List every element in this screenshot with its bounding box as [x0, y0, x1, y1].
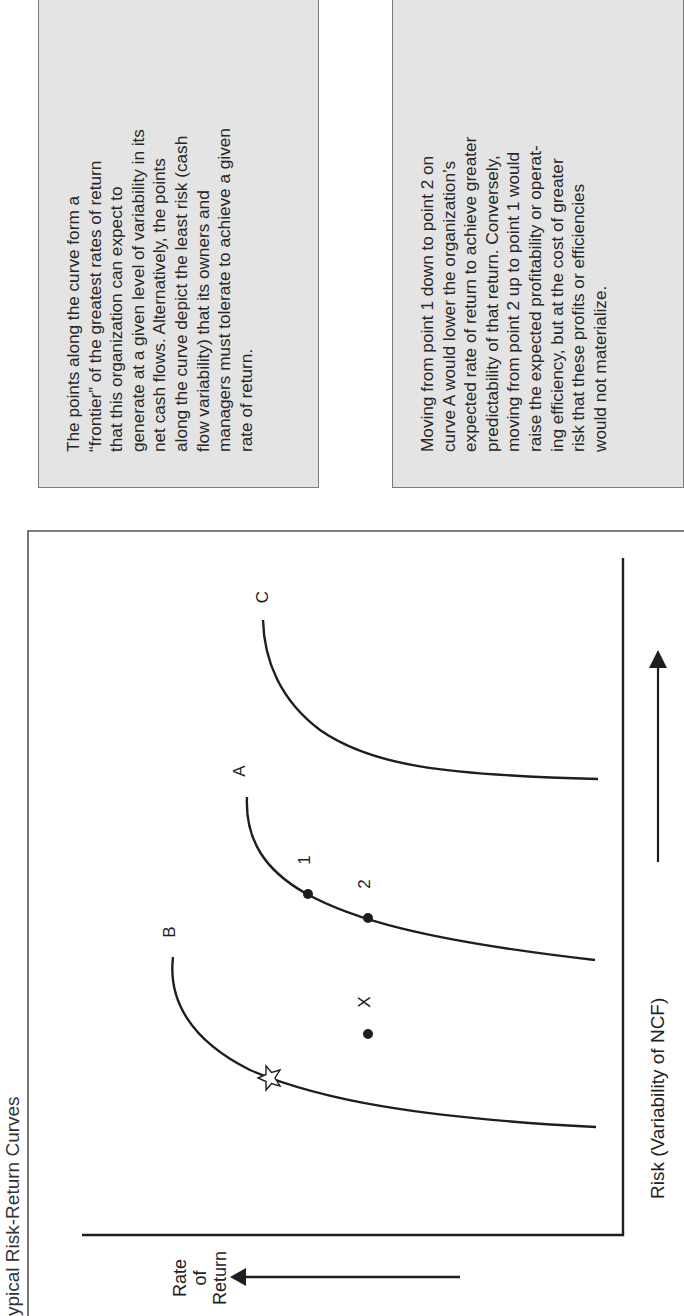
axes — [82, 558, 623, 1235]
curve-c-label: C — [253, 591, 272, 603]
x-axis-label: Risk (Variability of NCF) — [647, 998, 669, 1199]
curve-c — [263, 620, 598, 779]
point-x-label: X — [355, 996, 374, 1007]
risk-arrow-head — [649, 650, 667, 668]
point-1-label: 1 — [295, 855, 314, 864]
y-axis-label: Rate of Return — [170, 1240, 230, 1316]
star-icon — [258, 1066, 280, 1090]
curve-b — [172, 957, 596, 1127]
y-label-line: of — [190, 1240, 210, 1316]
curve-a — [247, 797, 595, 960]
point-2-label: 2 — [355, 879, 374, 888]
y-label-line: Return — [210, 1240, 230, 1316]
point-1-dot — [303, 889, 313, 899]
curve-b-label: B — [160, 926, 179, 937]
y-label-line: Rate — [170, 1240, 190, 1316]
return-arrow-head — [230, 1268, 246, 1286]
curve-a-label: A — [230, 765, 249, 777]
point-2-dot — [363, 913, 373, 923]
point-x-dot — [363, 1029, 373, 1039]
figure-frame — [28, 531, 684, 1316]
risk-return-chart: C A B 1 2 X — [0, 0, 684, 1316]
